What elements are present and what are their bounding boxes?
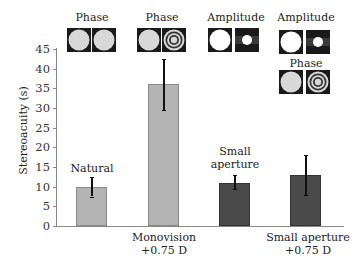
error-bar-cap bbox=[162, 110, 166, 111]
error-bar bbox=[305, 155, 307, 194]
icon-title-phase-3: Phase bbox=[280, 57, 332, 70]
y-tick-label: 10 bbox=[28, 181, 50, 193]
error-bar-cap bbox=[233, 175, 237, 176]
error-bar bbox=[91, 177, 93, 197]
y-tick-label: 45 bbox=[28, 43, 50, 55]
y-tick-label: 15 bbox=[28, 161, 50, 173]
icon-title-amplitude-2: Amplitude bbox=[274, 11, 338, 24]
y-tick-label: 0 bbox=[28, 220, 50, 232]
x-label-monovision-line1: Monovision bbox=[124, 231, 204, 244]
icon-title-phase-1: Phase bbox=[66, 11, 118, 24]
phase-plain-lens-icon bbox=[137, 28, 161, 52]
amplitude-small-lens-icon bbox=[306, 30, 330, 54]
error-bar bbox=[234, 175, 236, 189]
amplitude-large-lens-icon bbox=[208, 28, 232, 52]
bar-label-small-aperture-line2: aperture bbox=[204, 158, 266, 171]
y-tick-label: 30 bbox=[28, 102, 50, 114]
x-label-small-aperture-d-line2: +0.75 D bbox=[260, 244, 356, 257]
y-tick-label: 35 bbox=[28, 82, 50, 94]
error-bar-cap bbox=[304, 195, 308, 196]
amplitude-small-lens-icon bbox=[235, 28, 259, 52]
x-axis-line bbox=[56, 226, 344, 227]
error-bar bbox=[163, 59, 165, 110]
error-bar-cap bbox=[162, 59, 166, 60]
icon-title-amplitude-1: Amplitude bbox=[204, 11, 268, 24]
phase-rings-lens-icon bbox=[306, 70, 330, 94]
x-label-monovision-line2: +0.75 D bbox=[124, 244, 204, 257]
x-label-small-aperture-d-line1: Small aperture bbox=[260, 231, 356, 244]
phase-plain-lens-icon bbox=[67, 28, 91, 52]
bar-label-natural: Natural bbox=[66, 162, 118, 175]
y-axis-line bbox=[56, 48, 57, 227]
phase-plain-lens-icon bbox=[279, 70, 303, 94]
bar-label-small-aperture-line1: Small bbox=[209, 145, 261, 158]
error-bar-cap bbox=[233, 189, 237, 190]
error-bar-cap bbox=[90, 197, 94, 198]
phase-plain-lens-icon bbox=[92, 28, 116, 52]
amplitude-large-lens-icon bbox=[279, 30, 303, 54]
y-tick-label: 5 bbox=[28, 200, 50, 212]
y-tick-label: 40 bbox=[28, 63, 50, 75]
error-bar-cap bbox=[304, 155, 308, 156]
icon-title-phase-2: Phase bbox=[136, 11, 188, 24]
error-bar-cap bbox=[90, 177, 94, 178]
phase-rings-lens-icon bbox=[162, 28, 186, 52]
y-tick-label: 20 bbox=[28, 141, 50, 153]
y-tick-label: 25 bbox=[28, 122, 50, 134]
